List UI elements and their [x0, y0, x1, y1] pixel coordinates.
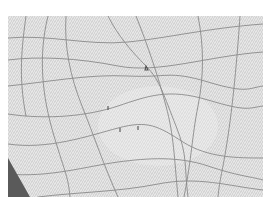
grid-svg — [8, 16, 263, 197]
grid-line-v — [42, 16, 70, 197]
grid-line-h — [38, 181, 263, 197]
grid-line-h — [8, 75, 263, 89]
screenshot-frame — [0, 0, 272, 211]
marker-a-icon[interactable] — [145, 66, 148, 70]
warped-grid-canvas[interactable] — [8, 16, 263, 197]
grid-line-h — [8, 24, 263, 43]
dark-corner-shape — [8, 158, 30, 197]
grid-line-v — [21, 16, 26, 116]
